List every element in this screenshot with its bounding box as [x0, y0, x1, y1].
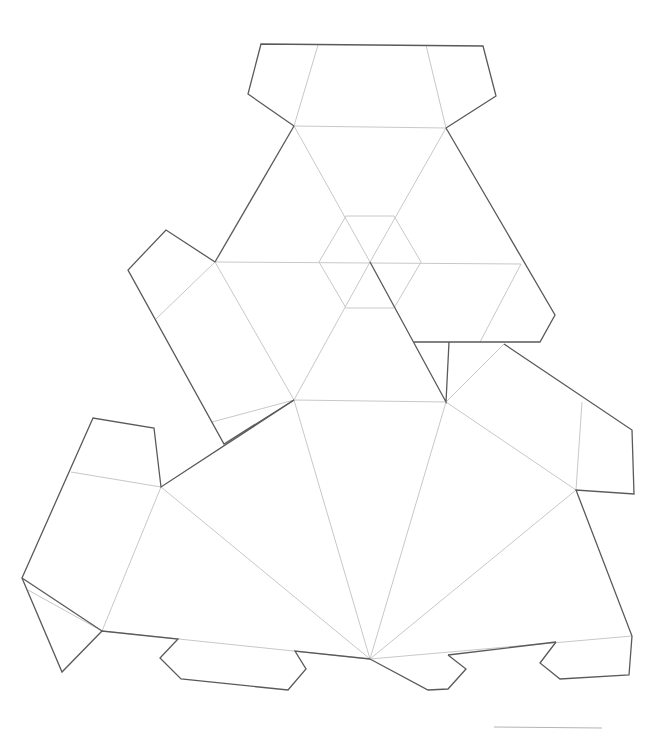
fold-line-diag-4 — [480, 264, 521, 342]
fold-line-fan-1 — [294, 400, 370, 659]
fold-line-diag-1 — [294, 126, 370, 262]
fold-line-horizontal-midline — [215, 262, 521, 264]
cut-line-top-triangle-left-edge — [215, 126, 294, 262]
fold-line-top-tab-right-crease — [426, 45, 446, 128]
cut-lines — [22, 44, 634, 690]
fold-line-fan-4 — [370, 490, 576, 659]
fold-line-top-tab-fold — [294, 126, 446, 128]
cut-line-top-triangle-right-edge — [414, 128, 555, 342]
fold-line-left-tab-crease-upper — [71, 472, 161, 487]
fold-line-diag-2 — [370, 128, 446, 262]
fold-line-fan-3 — [161, 487, 370, 659]
fold-line-base-right-diag — [446, 344, 504, 402]
fold-line-left-big-fold — [102, 487, 161, 631]
papercraft-net-diagram — [0, 0, 671, 734]
fold-line-right-tab-fold — [576, 402, 582, 490]
fold-lines — [28, 45, 632, 659]
fold-line-left-tab-fold-main — [215, 262, 294, 400]
cut-line-bottom-left-edge — [22, 400, 370, 690]
cut-line-right-upper-tab — [504, 344, 634, 679]
scale-bar — [494, 727, 602, 728]
cut-line-left-lower-connector — [22, 578, 102, 631]
cut-line-top-tab — [248, 44, 496, 128]
fold-line-right-side-1 — [446, 402, 576, 490]
cut-line-bottom-right-tab-edge — [448, 642, 556, 655]
cut-line-bottom-center-tab — [370, 655, 466, 690]
fold-line-left-tab-crease-lower — [28, 590, 102, 631]
cut-line-center-slit — [370, 262, 449, 402]
fold-line-diag-3 — [294, 262, 370, 400]
fold-line-left-tab-fold-upper — [156, 262, 215, 319]
fold-line-base-top-edge — [294, 400, 446, 402]
fold-line-fan-2 — [370, 402, 446, 659]
fold-line-bottom-right-fold — [370, 636, 632, 659]
fold-line-top-tab-left-crease — [294, 45, 318, 126]
fold-line-left-tab-fold-lower — [212, 400, 294, 422]
